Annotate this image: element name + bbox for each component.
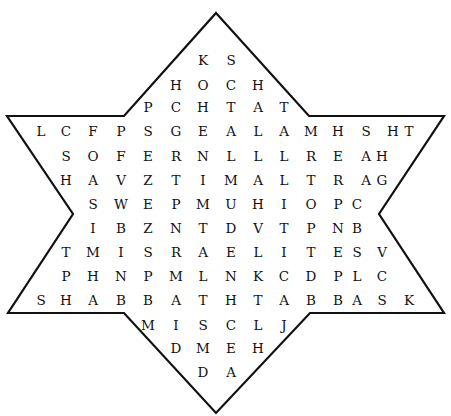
grid-letter[interactable]: S — [372, 290, 392, 310]
grid-letter[interactable]: L — [248, 146, 268, 166]
grid-letter[interactable]: L — [221, 146, 241, 166]
grid-letter[interactable]: H — [166, 75, 186, 95]
grid-letter[interactable]: R — [166, 146, 186, 166]
grid-letter[interactable]: T — [193, 218, 213, 238]
grid-letter[interactable]: N — [166, 218, 186, 238]
grid-letter[interactable]: G — [372, 170, 392, 190]
grid-letter[interactable]: D — [301, 266, 321, 286]
grid-letter[interactable]: L — [193, 266, 213, 286]
grid-letter[interactable]: C — [166, 97, 186, 117]
grid-letter[interactable]: M — [83, 242, 103, 262]
grid-letter[interactable]: O — [301, 194, 321, 214]
grid-letter[interactable]: D — [193, 362, 213, 382]
grid-letter[interactable]: Z — [138, 218, 158, 238]
grid-letter[interactable]: H — [328, 121, 348, 141]
grid-letter[interactable]: O — [83, 146, 103, 166]
grid-letter[interactable]: M — [166, 266, 186, 286]
grid-letter[interactable]: E — [328, 242, 348, 262]
grid-letter[interactable]: T — [166, 170, 186, 190]
grid-letter[interactable]: A — [193, 242, 213, 262]
grid-letter[interactable]: R — [328, 170, 348, 190]
grid-letter[interactable]: M — [221, 170, 241, 190]
grid-letter[interactable]: H — [193, 97, 213, 117]
grid-letter[interactable]: H — [56, 290, 76, 310]
grid-letter[interactable]: F — [83, 121, 103, 141]
grid-letter[interactable]: G — [166, 121, 186, 141]
grid-letter[interactable]: E — [328, 146, 348, 166]
grid-letter[interactable]: A — [248, 97, 268, 117]
grid-letter[interactable]: A — [274, 290, 294, 310]
grid-letter[interactable]: T — [274, 218, 294, 238]
grid-letter[interactable]: I — [274, 242, 294, 262]
grid-letter[interactable]: K — [399, 290, 419, 310]
grid-letter[interactable]: B — [111, 290, 131, 310]
grid-letter[interactable]: V — [372, 242, 392, 262]
grid-letter[interactable]: P — [111, 121, 131, 141]
grid-letter[interactable]: P — [138, 97, 158, 117]
grid-letter[interactable]: T — [221, 97, 241, 117]
grid-letter[interactable]: H — [56, 170, 76, 190]
grid-letter[interactable]: N — [111, 266, 131, 286]
grid-letter[interactable]: H — [248, 194, 268, 214]
grid-letter[interactable]: A — [166, 290, 186, 310]
grid-letter[interactable]: T — [399, 121, 419, 141]
grid-letter[interactable]: U — [221, 194, 241, 214]
grid-letter[interactable]: P — [56, 266, 76, 286]
grid-letter[interactable]: E — [138, 194, 158, 214]
grid-letter[interactable]: L — [347, 266, 367, 286]
grid-letter[interactable]: R — [166, 242, 186, 262]
grid-letter[interactable]: C — [372, 266, 392, 286]
grid-letter[interactable]: J — [274, 315, 294, 335]
grid-letter[interactable]: O — [193, 75, 213, 95]
grid-letter[interactable]: B — [301, 290, 321, 310]
grid-letter[interactable]: C — [221, 75, 241, 95]
grid-letter[interactable]: L — [274, 170, 294, 190]
grid-letter[interactable]: C — [221, 315, 241, 335]
grid-letter[interactable]: A — [83, 290, 103, 310]
grid-letter[interactable]: T — [248, 290, 268, 310]
grid-letter[interactable]: A — [221, 362, 241, 382]
grid-letter[interactable]: B — [111, 218, 131, 238]
grid-letter[interactable]: H — [248, 75, 268, 95]
grid-letter[interactable]: D — [221, 218, 241, 238]
grid-letter[interactable]: A — [347, 290, 367, 310]
grid-letter[interactable]: L — [248, 315, 268, 335]
grid-letter[interactable]: S — [83, 194, 103, 214]
grid-letter[interactable]: S — [31, 290, 51, 310]
grid-letter[interactable]: L — [248, 121, 268, 141]
grid-letter[interactable]: E — [138, 146, 158, 166]
grid-letter[interactable]: V — [248, 218, 268, 238]
grid-letter[interactable]: E — [221, 338, 241, 358]
grid-letter[interactable]: S — [138, 242, 158, 262]
grid-letter[interactable]: W — [111, 194, 131, 214]
grid-letter[interactable]: I — [193, 170, 213, 190]
grid-letter[interactable]: H — [221, 290, 241, 310]
grid-letter[interactable]: M — [193, 338, 213, 358]
grid-letter[interactable]: S — [56, 146, 76, 166]
grid-letter[interactable]: T — [56, 242, 76, 262]
grid-letter[interactable]: H — [372, 146, 392, 166]
grid-letter[interactable]: P — [301, 218, 321, 238]
grid-letter[interactable]: M — [301, 121, 321, 141]
grid-letter[interactable]: V — [111, 170, 131, 190]
grid-letter[interactable]: T — [193, 290, 213, 310]
grid-letter[interactable]: N — [328, 218, 348, 238]
grid-letter[interactable]: I — [166, 315, 186, 335]
grid-letter[interactable]: A — [248, 170, 268, 190]
grid-letter[interactable]: E — [193, 121, 213, 141]
grid-letter[interactable]: S — [193, 315, 213, 335]
grid-letter[interactable]: S — [221, 50, 241, 70]
grid-letter[interactable]: B — [138, 290, 158, 310]
grid-letter[interactable]: P — [328, 266, 348, 286]
grid-letter[interactable]: A — [83, 170, 103, 190]
grid-letter[interactable]: T — [301, 242, 321, 262]
grid-letter[interactable]: A — [274, 121, 294, 141]
grid-letter[interactable]: L — [274, 146, 294, 166]
grid-letter[interactable]: C — [56, 121, 76, 141]
grid-letter[interactable]: B — [328, 290, 348, 310]
grid-letter[interactable]: P — [138, 266, 158, 286]
grid-letter[interactable]: S — [356, 121, 376, 141]
grid-letter[interactable]: K — [248, 266, 268, 286]
grid-letter[interactable]: F — [111, 146, 131, 166]
grid-letter[interactable]: Z — [138, 170, 158, 190]
